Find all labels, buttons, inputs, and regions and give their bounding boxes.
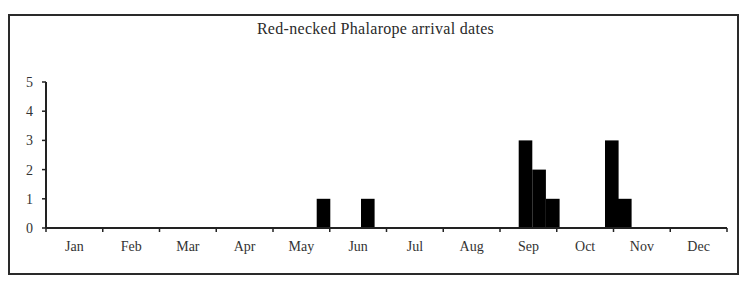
x-tick-label-nov: Nov <box>630 239 654 254</box>
axes-group: 012345JanFebMarAprMayJunJulAugSepOctNovD… <box>26 75 727 254</box>
bar-sep-4 <box>546 199 560 228</box>
bar-may-0 <box>317 199 331 228</box>
y-tick-label: 0 <box>26 221 33 236</box>
bar-sep-2 <box>519 140 533 228</box>
y-tick-label: 1 <box>26 192 33 207</box>
y-tick-label: 2 <box>26 163 33 178</box>
x-tick-label-oct: Oct <box>575 239 595 254</box>
bar-oct-6 <box>618 199 632 228</box>
bar-sep-3 <box>532 170 546 228</box>
y-tick-label: 3 <box>26 133 33 148</box>
x-tick-label-jan: Jan <box>65 239 84 254</box>
y-tick-label: 4 <box>26 104 33 119</box>
x-tick-label-mar: Mar <box>176 239 200 254</box>
x-tick-label-apr: Apr <box>234 239 256 254</box>
x-tick-label-dec: Dec <box>687 239 710 254</box>
bars-group <box>317 140 632 228</box>
x-tick-label-may: May <box>289 239 315 254</box>
y-tick-label: 5 <box>26 75 33 90</box>
x-tick-label-sep: Sep <box>518 239 539 254</box>
x-tick-label-feb: Feb <box>121 239 142 254</box>
bar-chart: 012345JanFebMarAprMayJunJulAugSepOctNovD… <box>0 0 751 283</box>
bar-oct-5 <box>605 140 619 228</box>
x-tick-label-aug: Aug <box>460 239 484 254</box>
x-tick-label-jun: Jun <box>348 239 367 254</box>
bar-jun-1 <box>361 199 375 228</box>
x-tick-label-jul: Jul <box>407 239 423 254</box>
